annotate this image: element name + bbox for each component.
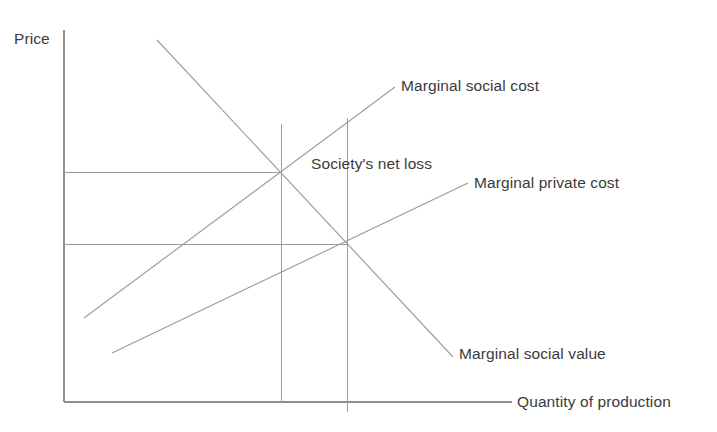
y-axis-label: Price	[14, 30, 50, 48]
externality-diagram: Price Marginal social cost Society's net…	[0, 0, 717, 432]
diagram-canvas	[0, 0, 717, 432]
curve-label-marginal-social-cost: Marginal social cost	[401, 77, 539, 95]
annotation-societys-net-loss: Society's net loss	[311, 155, 432, 173]
curve-label-marginal-social-value: Marginal social value	[459, 345, 606, 363]
curve-marginal-private-cost	[112, 183, 468, 353]
x-axis-label: Quantity of production	[517, 393, 671, 411]
curve-label-marginal-private-cost: Marginal private cost	[474, 174, 619, 192]
curve-marginal-social-cost	[84, 87, 395, 318]
